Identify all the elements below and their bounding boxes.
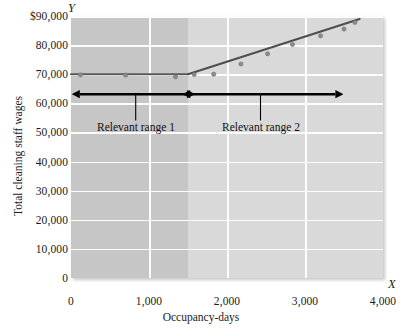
y-axis-letter: Y xyxy=(68,1,75,16)
y-tick-label: 40,000 xyxy=(36,156,68,168)
gridline-vertical xyxy=(149,16,151,278)
y-axis-title: Total cleaning staff wages xyxy=(12,56,24,256)
x-axis-title: Occupancy-days xyxy=(0,311,402,323)
y-tick-label: 10,000 xyxy=(36,243,68,255)
relevant-range-2-label: Relevant range 2 xyxy=(181,121,341,133)
x-tick-label: 3,000 xyxy=(275,295,335,307)
x-tick-label: 4,000 xyxy=(353,295,402,307)
x-tick-label: 1,000 xyxy=(119,295,179,307)
chart-canvas: Relevant range 1 Relevant range 2 $90,00… xyxy=(0,0,402,329)
y-tick-label: 0 xyxy=(62,272,68,284)
gridline-vertical xyxy=(305,16,307,278)
y-tick-label: 70,000 xyxy=(36,68,68,80)
relevant-range-1-shaded-band xyxy=(71,16,188,278)
y-tick-label: $90,000 xyxy=(30,10,68,22)
plot-area xyxy=(71,16,383,278)
y-tick-label: 50,000 xyxy=(36,126,68,138)
x-tick-label: 2,000 xyxy=(197,295,257,307)
y-tick-label: 20,000 xyxy=(36,214,68,226)
y-tick-label: 30,000 xyxy=(36,185,68,197)
x-tick-label: 0 xyxy=(41,295,101,307)
y-tick-label: 80,000 xyxy=(36,39,68,51)
gridline-vertical xyxy=(227,16,229,278)
x-axis-letter: X xyxy=(388,277,396,292)
y-tick-label: 60,000 xyxy=(36,97,68,109)
